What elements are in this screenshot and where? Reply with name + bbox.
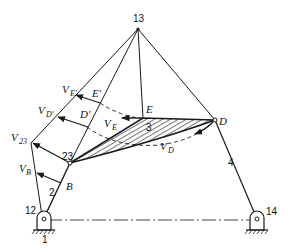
label-ic12: 12	[25, 205, 37, 216]
svg-text:E: E	[111, 123, 117, 132]
label-ic13: 13	[133, 13, 145, 24]
label-vD: V D	[160, 140, 174, 155]
svg-text:B: B	[26, 168, 31, 177]
svg-text:V: V	[62, 83, 70, 95]
svg-text:D': D'	[45, 110, 54, 119]
svg-text:E': E'	[69, 89, 77, 98]
link-4	[215, 120, 257, 219]
joint-13	[136, 27, 139, 30]
svg-text:V: V	[104, 117, 112, 129]
link-3-coupler	[70, 118, 215, 163]
label-vDprime: V D'	[38, 104, 54, 119]
label-vB: V B	[19, 162, 31, 177]
linkage-diagram: 13 12 14 1 23 2 3 4 B D E E' D' V E' V D…	[0, 0, 291, 252]
vB-vector	[37, 173, 61, 183]
label-link2: 2	[49, 187, 55, 198]
label-point-Dprime: D'	[79, 108, 91, 120]
arc-E-to-Eprime	[100, 103, 140, 118]
label-v23: V 23	[11, 131, 27, 146]
label-ground-1: 1	[42, 234, 48, 245]
svg-text:V: V	[160, 140, 168, 152]
label-link3: 3	[146, 122, 152, 133]
label-vEprime: V E'	[62, 83, 77, 98]
label-point-B: B	[66, 180, 73, 192]
ground-pivot-14	[245, 211, 268, 234]
ray-13-to-E	[138, 29, 143, 118]
svg-text:V: V	[11, 131, 19, 143]
label-point-E: E	[145, 103, 153, 115]
label-link4: 4	[228, 157, 234, 168]
label-ic23: 23	[62, 151, 74, 162]
svg-text:23: 23	[19, 137, 27, 146]
joint-D	[213, 118, 217, 122]
svg-text:D: D	[167, 146, 174, 155]
label-point-D: D	[218, 115, 227, 127]
label-point-Eprime: E'	[91, 87, 102, 99]
svg-text:V: V	[38, 104, 46, 116]
label-ic14: 14	[266, 206, 278, 217]
label-vE: V E	[104, 117, 117, 132]
